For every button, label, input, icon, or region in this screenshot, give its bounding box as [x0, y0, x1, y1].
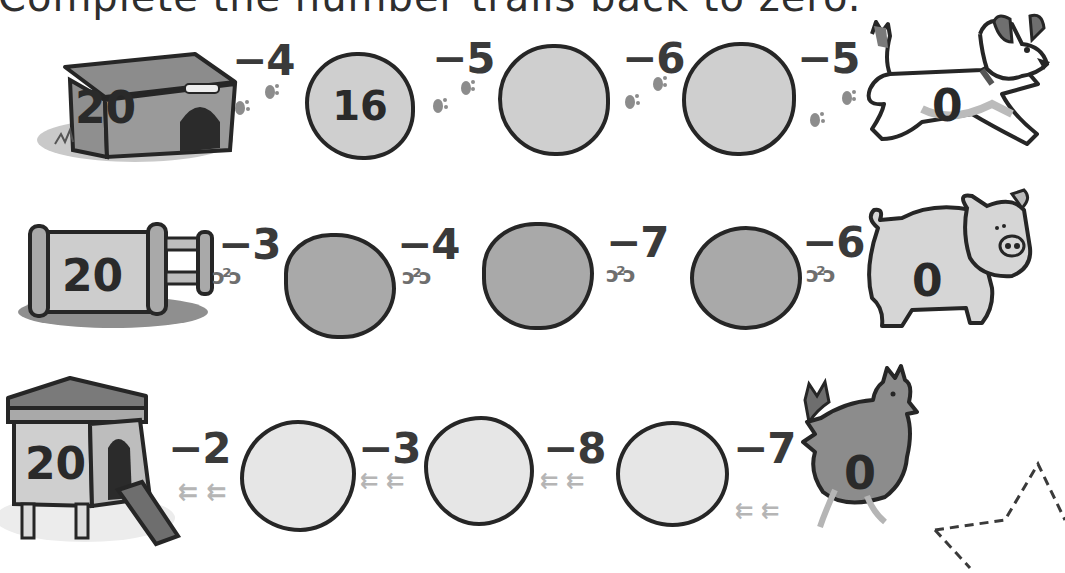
answer-value: 16	[332, 83, 388, 129]
end-value-hen: 0	[844, 446, 876, 500]
step-3: −8	[543, 428, 605, 470]
paw-print-icon	[230, 80, 280, 120]
end-value-pig: 0	[912, 255, 943, 306]
page-title: Complete the number trails back to zero.	[0, 0, 861, 20]
step-4: −7	[733, 428, 795, 470]
end-value-dog: 0	[932, 80, 963, 131]
answer-box-3[interactable]	[690, 226, 802, 330]
start-value-hen-house: 20	[25, 438, 86, 489]
paw-print-icon	[620, 72, 670, 112]
step-4: −5	[797, 38, 859, 80]
step-2: −5	[432, 38, 494, 80]
step-1: −4	[232, 40, 294, 82]
step-2: −3	[358, 428, 420, 470]
step-3: −7	[606, 222, 668, 264]
start-value-kennel: 20	[75, 82, 136, 133]
chicken-footprint-icon: ⇇ ⇇	[540, 468, 585, 493]
answer-box-1[interactable]	[240, 420, 356, 532]
chicken-footprint-icon: ⇇ ⇇	[178, 478, 227, 506]
pig-icon	[862, 188, 1042, 338]
answer-box-2[interactable]	[482, 222, 594, 330]
chicken-footprint-icon: ⇇ ⇇	[735, 498, 780, 523]
hoof-print-icon: ↄ²ↄ	[402, 264, 429, 289]
hoof-print-icon: ↄ²ↄ	[606, 262, 633, 287]
answer-box-1[interactable]: 16	[305, 52, 415, 160]
answer-box-2[interactable]	[424, 416, 534, 526]
paw-print-icon	[428, 76, 478, 116]
dashed-star-icon	[925, 450, 1065, 573]
step-1: −2	[168, 428, 230, 470]
start-value-pen: 20	[62, 250, 123, 301]
hoof-print-icon: ↄ²ↄ	[212, 264, 239, 289]
hoof-print-icon: ↄ²ↄ	[806, 262, 833, 287]
answer-box-3[interactable]	[616, 421, 729, 527]
answer-box-2[interactable]	[498, 44, 610, 156]
step-1: −3	[218, 224, 280, 266]
paw-print-icon	[805, 82, 855, 132]
step-4: −6	[802, 222, 864, 264]
answer-box-1[interactable]	[284, 233, 396, 339]
answer-box-3[interactable]	[682, 42, 796, 156]
chicken-footprint-icon: ⇇ ⇇	[360, 468, 405, 493]
step-2: −4	[397, 224, 459, 266]
